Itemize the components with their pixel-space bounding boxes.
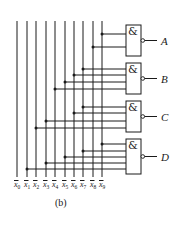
output-label-D: D	[160, 151, 169, 163]
junction-dot	[45, 120, 48, 123]
input-label-x6: x6	[70, 180, 78, 190]
inversion-bubble-icon	[141, 77, 145, 81]
input-label-x7: x7	[79, 180, 87, 190]
junction-dot	[82, 68, 85, 71]
input-label-x1: x1	[23, 180, 31, 190]
junction-dot	[92, 46, 95, 49]
junction-dot	[82, 106, 85, 109]
inversion-bubble-icon	[141, 155, 145, 159]
input-label-x2: x2	[32, 180, 40, 190]
logic-circuit-diagram: x0x1x2x3x4x5x6x7x8x9&A&B&C&D(b)	[0, 0, 183, 228]
junction-dot	[82, 150, 85, 153]
input-label-x4: x4	[51, 180, 59, 190]
inversion-bubble-icon	[141, 39, 145, 43]
output-label-A: A	[160, 35, 168, 47]
circuit-svg: x0x1x2x3x4x5x6x7x8x9&A&B&C&D(b)	[0, 0, 183, 228]
inversion-bubble-icon	[141, 115, 145, 119]
junction-dot	[64, 81, 67, 84]
input-label-x3: x3	[42, 180, 50, 190]
junction-dot	[45, 162, 48, 165]
junction-dot	[64, 156, 67, 159]
gate-symbol-C: &	[128, 101, 138, 114]
input-label-x8: x8	[89, 180, 97, 190]
junction-dot	[101, 143, 104, 146]
input-label-x9: x9	[98, 180, 106, 190]
junction-dot	[73, 74, 76, 77]
input-label-x0: x0	[13, 180, 21, 190]
output-label-B: B	[161, 73, 168, 85]
junction-dot	[101, 33, 104, 36]
junction-dot	[54, 88, 57, 91]
output-label-C: C	[161, 111, 169, 123]
junction-dot	[35, 127, 38, 130]
input-label-x5: x5	[61, 180, 69, 190]
gate-symbol-B: &	[128, 63, 138, 76]
gate-symbol-A: &	[128, 25, 138, 38]
figure-caption: (b)	[55, 197, 67, 209]
junction-dot	[26, 168, 29, 171]
gate-symbol-D: &	[128, 139, 138, 152]
junction-dot	[73, 112, 76, 115]
